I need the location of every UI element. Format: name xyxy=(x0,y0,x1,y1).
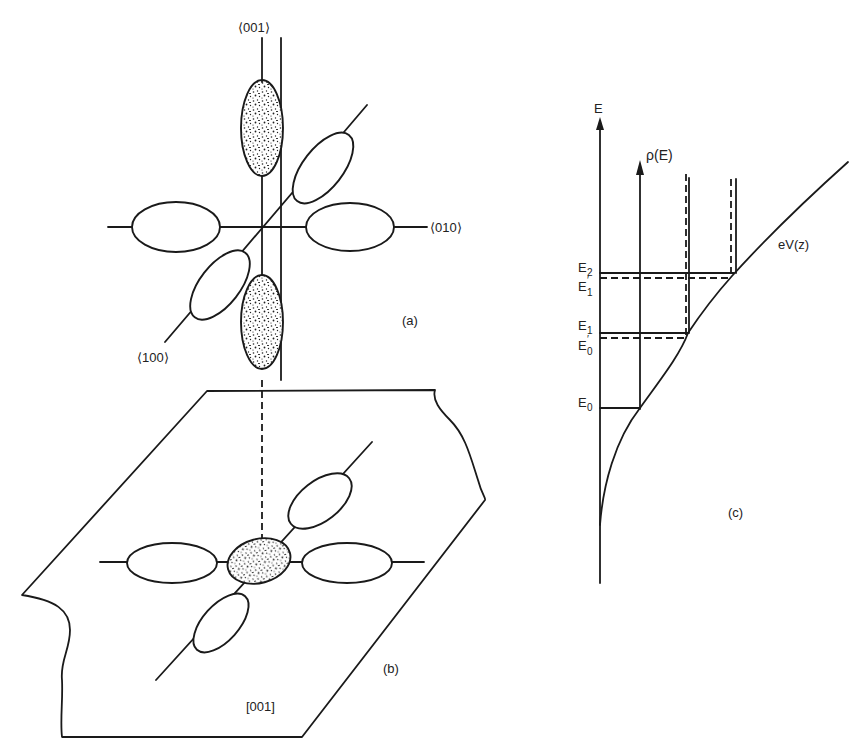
plane-001-label: [001] xyxy=(246,699,275,714)
axis-100-label: ⟨100⟩ xyxy=(137,350,169,365)
label-E1-prime: E ′ 1 xyxy=(578,275,593,298)
svg-text:0: 0 xyxy=(587,402,593,413)
panel-a-label: (a) xyxy=(402,313,418,328)
plane-valley-lower-diag xyxy=(184,584,259,662)
panel-c-label: (c) xyxy=(728,505,743,520)
figure: ⟨001⟩ ⟨010⟩ ⟨100⟩ (a) (b) [001] E ρ(E) xyxy=(0,0,865,754)
panel-c-energy-levels: E ρ(E) eV(z) E 2 E ′ 1 E 1 xyxy=(578,101,848,583)
valley-ellipse-bottom-shaded xyxy=(241,275,283,369)
svg-text:E: E xyxy=(578,395,587,410)
svg-text:0: 0 xyxy=(587,346,593,357)
svg-text:E: E xyxy=(578,318,587,333)
label-E0-prime: E ′ 0 xyxy=(578,334,593,357)
label-E1: E 1 xyxy=(578,318,593,336)
label-E2: E 2 xyxy=(578,260,593,278)
valley-ellipse-top-shaded xyxy=(241,80,283,176)
energy-axis-label: E xyxy=(594,101,603,116)
svg-text:E: E xyxy=(578,279,587,294)
svg-text:1: 1 xyxy=(587,287,593,298)
svg-text:′: ′ xyxy=(587,275,589,286)
valley-ellipse-left xyxy=(132,202,220,252)
valley-ellipse-right xyxy=(306,203,394,251)
axis-010-label: ⟨010⟩ xyxy=(430,220,462,235)
panel-b-label: (b) xyxy=(383,661,399,676)
valley-ellipse-upper-diag xyxy=(281,123,364,214)
plane-valley-center-shaded xyxy=(222,531,295,590)
plane-valley-upper-diag xyxy=(279,462,362,539)
panel-b-projected-plane: (b) [001] xyxy=(22,380,485,737)
plane-valley-right xyxy=(302,543,392,583)
label-E0: E 0 xyxy=(578,395,593,413)
energy-axis-arrowhead xyxy=(596,117,604,130)
svg-text:E: E xyxy=(578,338,587,353)
potential-curve xyxy=(600,162,848,525)
potential-label: eV(z) xyxy=(778,237,809,252)
axis-001-label: ⟨001⟩ xyxy=(238,20,270,35)
svg-text:E: E xyxy=(578,260,587,275)
plane-valley-left xyxy=(127,543,217,583)
dos-label: ρ(E) xyxy=(646,147,673,163)
dos-axis-arrowhead xyxy=(636,160,644,175)
panel-a-valley-diagram: ⟨001⟩ ⟨010⟩ ⟨100⟩ (a) xyxy=(108,20,462,380)
svg-text:′: ′ xyxy=(587,334,589,345)
